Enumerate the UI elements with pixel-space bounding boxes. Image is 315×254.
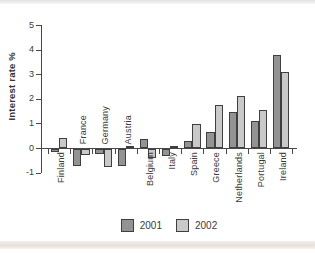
y-axis-line	[41, 25, 42, 173]
x-label-finland: Finland	[56, 152, 67, 183]
x-label-netherlands: Netherlands	[234, 152, 245, 203]
x-tick-4	[137, 149, 138, 154]
bar-belgium-2001	[140, 139, 148, 148]
x-label-spain: Spain	[189, 152, 200, 176]
bar-portugal-2002	[259, 110, 267, 148]
bar-netherlands-2001	[229, 112, 237, 148]
bar-ireland-2001	[273, 55, 281, 148]
bar-greece-2002	[215, 105, 223, 148]
x-tick-6	[181, 149, 182, 154]
bar-netherlands-2002	[237, 96, 245, 148]
y-tick-label--1: -1	[18, 168, 34, 177]
x-tick-2	[92, 149, 93, 154]
y-tick-label-2: 2	[18, 94, 34, 103]
bar-spain-2002	[192, 124, 200, 149]
x-label-italy: Italy	[167, 152, 178, 170]
bar-france-2002	[81, 149, 89, 155]
x-label-ireland: Ireland	[278, 152, 289, 181]
x-tick-5	[159, 149, 160, 154]
x-tick-9	[248, 149, 249, 154]
legend-label-2002: 2002	[195, 220, 217, 231]
bar-ireland-2002	[281, 72, 289, 148]
bar-finland-2002	[59, 138, 67, 148]
x-tick-3	[115, 149, 116, 154]
legend: 2001 2002	[41, 219, 297, 232]
page-edge-bottom	[0, 241, 315, 249]
legend-item-2002: 2002	[176, 219, 217, 232]
legend-swatch-2002	[176, 219, 189, 232]
x-label-greece: Greece	[211, 152, 222, 183]
page-edge-top	[0, 0, 315, 4]
bar-portugal-2001	[251, 121, 259, 148]
bar-germany-2001	[95, 149, 103, 154]
x-tick-1	[70, 149, 71, 154]
x-tick-11	[292, 149, 293, 154]
x-label-france: France	[78, 115, 89, 144]
x-tick-0	[48, 149, 49, 154]
x-label-belgium: Belgium	[145, 152, 156, 186]
bar-spain-2001	[184, 141, 192, 148]
legend-item-2001: 2001	[121, 219, 162, 232]
y-tick-label-4: 4	[18, 45, 34, 54]
y-tick-label-1: 1	[18, 119, 34, 128]
x-label-austria: Austria	[123, 115, 134, 144]
chart-figure: Interest rate % 543210-1FinlandFranceGer…	[0, 0, 315, 254]
y-tick-label-3: 3	[18, 70, 34, 79]
x-tick-10	[270, 149, 271, 154]
y-axis-title: Interest rate %	[6, 52, 17, 120]
x-label-portugal: Portugal	[256, 152, 267, 187]
legend-swatch-2001	[121, 219, 134, 232]
x-tick-8	[226, 149, 227, 154]
y-tick-label-5: 5	[18, 21, 34, 30]
bar-austria-2001	[118, 149, 126, 166]
bar-france-2001	[73, 149, 81, 166]
x-axis-line	[41, 148, 297, 149]
legend-label-2001: 2001	[140, 220, 162, 231]
x-tick-7	[203, 149, 204, 154]
y-tick-label-0: 0	[18, 144, 34, 153]
bar-germany-2002	[104, 149, 112, 167]
bar-greece-2001	[206, 132, 214, 148]
x-label-germany: Germany	[100, 106, 111, 144]
